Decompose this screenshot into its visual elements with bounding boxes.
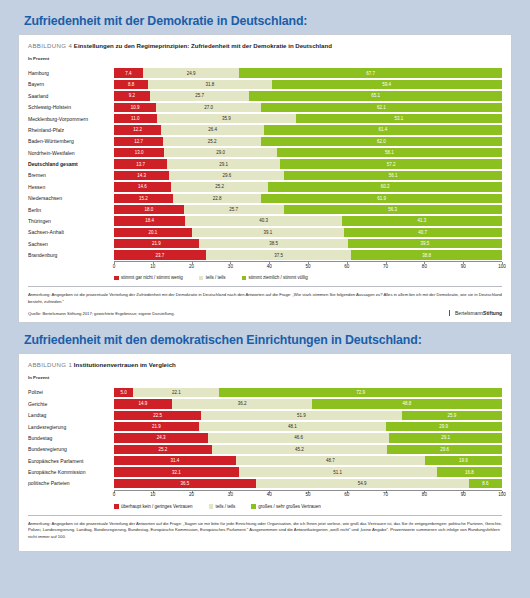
- stacked-bar: 36.554.98.6: [114, 479, 502, 488]
- stacked-bar: 18.025.756.3: [114, 205, 502, 214]
- bar-segment: 19.9: [425, 456, 502, 465]
- bar-segment: 56.3: [284, 205, 502, 214]
- bar-segment: 38.8: [351, 250, 502, 259]
- legend-item: teils / teils: [199, 275, 226, 280]
- chart-1-axis: 0102030405060708090100: [114, 261, 502, 271]
- axis-tick-label: 60: [344, 262, 349, 269]
- stacked-bar: 21.948.129.9: [114, 422, 502, 431]
- chart-row-label: Hamburg: [28, 70, 114, 76]
- bar-segment: 41.3: [342, 216, 502, 225]
- chart-row: politische Parteien36.554.98.6: [28, 478, 502, 488]
- stacked-bar: 12.725.262.0: [114, 137, 502, 146]
- legend-label: großes / sehr großes Vertrauen: [258, 504, 321, 509]
- legend-label: stimmt ziemlich / stimmt völlig: [249, 275, 308, 280]
- bar-segment: 8.6: [469, 479, 502, 488]
- bar-segment: 7.4: [114, 68, 143, 77]
- bar-segment: 14.3: [114, 171, 169, 180]
- bar-segment: 21.9: [114, 239, 199, 248]
- bar-segment: 14.6: [114, 182, 171, 191]
- chart-row: Rheinland-Pfalz12.226.461.4: [28, 125, 502, 135]
- chart-row-label: Deutschland gesamt: [28, 161, 114, 167]
- bar-segment: 23.7: [114, 250, 206, 259]
- bar-segment: 24.3: [114, 433, 208, 442]
- figure-header-2: ABBILDUNG 1 Institutionenvertrauen im Ve…: [28, 361, 502, 368]
- chart-row-label: Saarland: [28, 93, 114, 99]
- bar-segment: 13.0: [114, 148, 164, 157]
- axis-tick-label: 100: [498, 262, 506, 269]
- bar-segment: 27.0: [156, 103, 261, 112]
- bar-segment: 21.9: [114, 422, 199, 431]
- axis-tick-label: 60: [344, 491, 349, 498]
- bar-segment: 37.5: [206, 250, 352, 259]
- stacked-bar: 12.226.461.4: [114, 125, 502, 134]
- chart-row: Baden-Württemberg12.725.262.0: [28, 136, 502, 146]
- stacked-bar: 5.022.172.9: [114, 388, 502, 397]
- bar-segment: 46.6: [208, 433, 389, 442]
- chart-row: Bremen14.329.656.1: [28, 170, 502, 180]
- legend-swatch: [114, 504, 119, 509]
- section-heading-2: Zufriedenheit mit den demokratischen Ein…: [24, 333, 512, 347]
- chart-row-label: Bayern: [28, 81, 114, 87]
- figure-number-2: ABBILDUNG 1: [28, 361, 72, 368]
- chart-row: Europäische Kommission32.151.116.8: [28, 467, 502, 477]
- stacked-bar: 25.245.229.6: [114, 445, 502, 454]
- bar-segment: 29.6: [387, 445, 502, 454]
- axis-tick-label: 90: [461, 491, 466, 498]
- bar-segment: 15.2: [114, 194, 173, 203]
- chart-row-label: Landtag: [28, 412, 114, 418]
- section-demokratie-zufriedenheit: Zufriedenheit mit der Demokratie in Deut…: [18, 14, 512, 323]
- chart-row: Mecklenburg-Vorpommern11.035.953.1: [28, 114, 502, 124]
- chart-row: Bundestag24.346.629.1: [28, 433, 502, 443]
- chart-row-label: Sachsen: [28, 241, 114, 247]
- stacked-bar: 32.151.116.8: [114, 467, 502, 476]
- axis-tick-label: 10: [150, 262, 155, 269]
- axis-tick-label: 80: [422, 491, 427, 498]
- bar-segment: 36.2: [172, 399, 312, 408]
- axis-tick-label: 80: [422, 262, 427, 269]
- bar-segment: 35.9: [157, 114, 296, 123]
- stacked-bar: 13.729.157.2: [114, 159, 502, 168]
- bar-segment: 31.4: [114, 456, 236, 465]
- bar-segment: 31.8: [148, 80, 271, 89]
- chart-row: Brandenburg23.737.538.8: [28, 250, 502, 260]
- chart-row-label: Hessen: [28, 184, 114, 190]
- chart-row-label: Nordrhein-Westfalen: [28, 150, 114, 156]
- chart-row-label: Landesregierung: [28, 424, 114, 430]
- bar-segment: 25.2: [114, 445, 212, 454]
- legend-label: überhaupt kein / geringes Vertrauen: [121, 504, 193, 509]
- chart-row: Nordrhein-Westfalen13.029.058.1: [28, 148, 502, 158]
- bar-segment: 25.7: [150, 91, 250, 100]
- chart-row-label: Baden-Württemberg: [28, 138, 114, 144]
- chart-row: Niedersachsen15.222.861.9: [28, 193, 502, 203]
- axis-tick-label: 10: [150, 491, 155, 498]
- bar-segment: 13.7: [114, 159, 167, 168]
- axis-tick-label: 20: [189, 262, 194, 269]
- chart-row: Landtag22.551.925.9: [28, 410, 502, 420]
- bar-segment: 20.1: [114, 228, 192, 237]
- axis-tick-label: 100: [498, 491, 506, 498]
- bar-segment: 29.1: [389, 433, 502, 442]
- chart-row-label: Schleswig-Holstein: [28, 104, 114, 110]
- chart-row-label: Brandenburg: [28, 252, 114, 258]
- legend-swatch: [242, 276, 247, 281]
- stacked-bar: 11.035.953.1: [114, 114, 502, 123]
- bar-segment: 62.1: [261, 103, 502, 112]
- bar-segment: 25.2: [163, 137, 261, 146]
- stacked-bar: 14.625.260.2: [114, 182, 502, 191]
- stacked-bar: 21.938.539.5: [114, 239, 502, 248]
- stacked-bar: 18.440.341.3: [114, 216, 502, 225]
- legend-swatch: [199, 276, 204, 281]
- figure-card-2: ABBILDUNG 1 Institutionenvertrauen im Ve…: [18, 353, 512, 552]
- brand-logo: BertelsmannStiftung: [449, 310, 502, 316]
- chart-row: Hessen14.625.260.2: [28, 182, 502, 192]
- bar-segment: 48.8: [312, 399, 501, 408]
- section-institutionenvertrauen: Zufriedenheit mit den demokratischen Ein…: [18, 333, 512, 552]
- figure-card-1: ABBILDUNG 4 Einstellungen zu den Regimep…: [18, 34, 512, 323]
- chart-row-label: Thüringen: [28, 218, 114, 224]
- chart-row: Gerichte14.936.248.8: [28, 399, 502, 409]
- bar-segment: 9.2: [114, 91, 150, 100]
- bar-segment: 18.0: [114, 205, 184, 214]
- chart-row: Europäisches Parlament31.448.719.9: [28, 456, 502, 466]
- bar-segment: 22.8: [173, 194, 261, 203]
- bar-segment: 51.1: [239, 467, 437, 476]
